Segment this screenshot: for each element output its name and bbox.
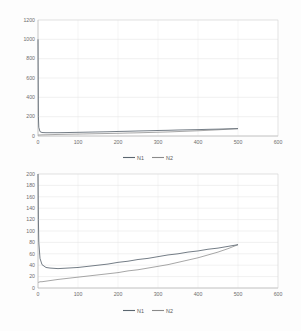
ytick-label: 100	[26, 228, 35, 234]
ytick-labels: 020040060080010001200	[23, 17, 35, 139]
legend-label-n1: N1	[137, 155, 144, 161]
xtick-label: 300	[154, 291, 163, 297]
ytick-label: 20	[29, 273, 35, 279]
ytick-label: 40	[29, 262, 35, 268]
ytick-labels: 020406080100120140160180200	[26, 171, 35, 291]
xtick-label: 0	[37, 139, 40, 145]
chart-top-canvas: 020040060080010001200 010020030040050060…	[0, 4, 301, 164]
xtick-label: 600	[274, 139, 283, 145]
ytick-label: 60	[29, 251, 35, 257]
ytick-label: 140	[26, 205, 35, 211]
xtick-label: 200	[114, 291, 123, 297]
ytick-label: 0	[32, 285, 35, 291]
ytick-label: 200	[26, 113, 35, 119]
ytick-label: 800	[26, 55, 35, 61]
legend-label-n2: N2	[166, 308, 173, 314]
ytick-label: 1000	[23, 36, 35, 42]
legend-top: N1 N2	[123, 155, 173, 161]
xtick-label: 300	[154, 139, 163, 145]
chart-bottom-plot-area: 020406080100120140160180200 010020030040…	[26, 171, 282, 297]
xtick-label: 100	[74, 291, 83, 297]
xtick-label: 100	[74, 139, 83, 145]
xtick-label: 0	[37, 291, 40, 297]
ytick-label: 1200	[23, 17, 35, 23]
chart-top-plot-area: 020040060080010001200 010020030040050060…	[23, 17, 282, 145]
xtick-label: 600	[274, 291, 283, 297]
legend-label-n1: N1	[137, 308, 144, 314]
xtick-label: 200	[114, 139, 123, 145]
xtick-labels: 0100200300400500600	[37, 139, 283, 145]
ytick-label: 160	[26, 194, 35, 200]
legend-label-n2: N2	[166, 155, 173, 161]
xtick-label: 400	[194, 139, 203, 145]
ytick-label: 120	[26, 216, 35, 222]
ytick-label: 600	[26, 75, 35, 81]
xtick-label: 500	[234, 139, 243, 145]
legend-bottom: N1 N2	[123, 308, 173, 314]
xtick-labels: 0100200300400500600	[37, 291, 283, 297]
chart-top: 020040060080010001200 010020030040050060…	[0, 4, 301, 164]
chart-bottom-canvas: 020406080100120140160180200 010020030040…	[0, 168, 301, 328]
chart-bottom: 020406080100120140160180200 010020030040…	[0, 168, 301, 328]
ytick-label: 200	[26, 171, 35, 177]
xtick-label: 400	[194, 291, 203, 297]
xtick-label: 500	[234, 291, 243, 297]
ytick-label: 400	[26, 94, 35, 100]
ytick-label: 0	[32, 133, 35, 139]
chart-page: 020040060080010001200 010020030040050060…	[0, 0, 301, 331]
ytick-label: 180	[26, 182, 35, 188]
ytick-label: 80	[29, 239, 35, 245]
